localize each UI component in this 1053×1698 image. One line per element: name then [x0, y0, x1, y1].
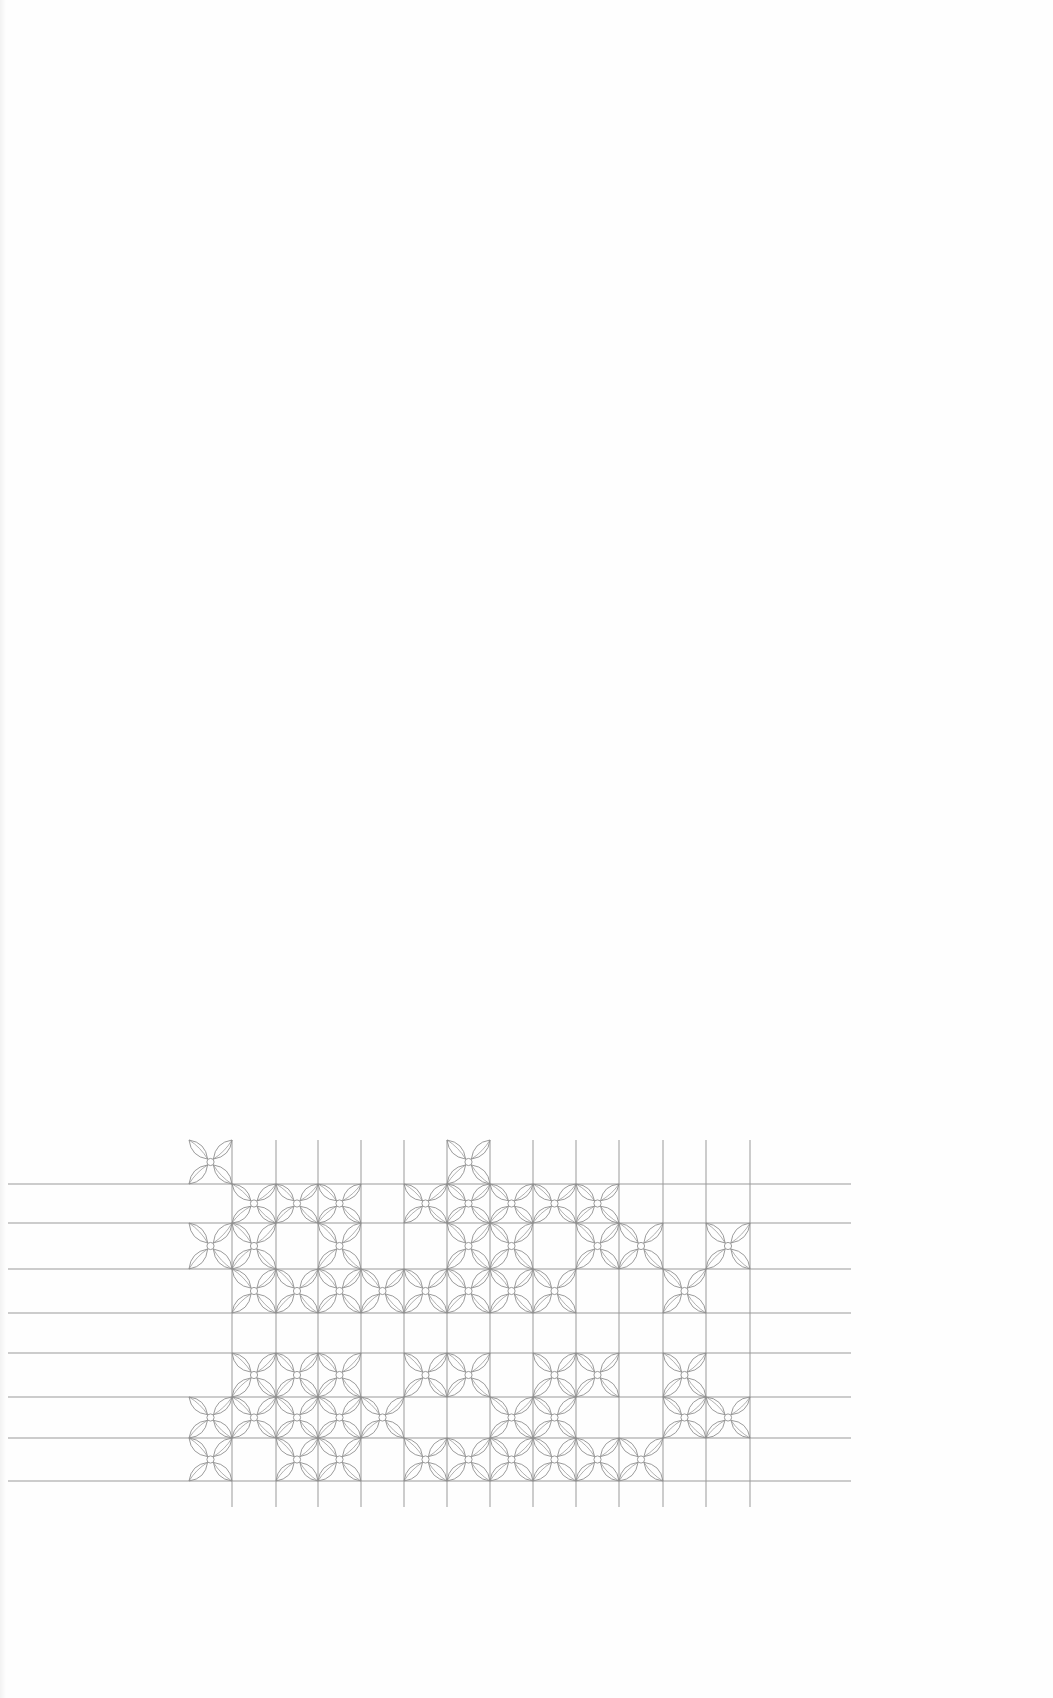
flower-motif-icon	[663, 1269, 706, 1313]
flower-motif-icon	[663, 1397, 706, 1438]
flower-motif-icon	[276, 1397, 318, 1438]
flower-motif-icon	[447, 1223, 490, 1269]
flower-motif-icon	[490, 1223, 533, 1269]
flower-motif-icon	[576, 1353, 619, 1397]
flower-motif-icon	[490, 1438, 533, 1481]
flower-motif-icon	[189, 1140, 232, 1184]
flower-motif-icon	[232, 1353, 276, 1397]
flower-motif-icon	[318, 1269, 361, 1313]
flower-motif-icon	[706, 1223, 750, 1269]
flower-motif-icon	[533, 1184, 576, 1223]
flower-motif-icon	[232, 1397, 276, 1438]
flower-motif-icon	[533, 1269, 576, 1313]
flower-motif-icon	[361, 1397, 404, 1438]
page	[0, 0, 1053, 1698]
flower-motif-icon	[276, 1353, 318, 1397]
flower-motif-icon	[232, 1223, 276, 1269]
flower-grid-pattern	[0, 0, 1053, 1698]
flower-motif-icon	[619, 1438, 663, 1481]
flower-motif-icon	[404, 1184, 447, 1223]
flower-motif-icon	[447, 1353, 490, 1397]
flower-motif-icon	[318, 1438, 361, 1481]
flower-motif-icon	[404, 1269, 447, 1313]
flower-motifs	[189, 1140, 750, 1481]
flower-motif-icon	[447, 1438, 490, 1481]
flower-motif-icon	[361, 1269, 404, 1313]
flower-motif-icon	[447, 1269, 490, 1313]
flower-motif-icon	[490, 1397, 533, 1438]
flower-motif-icon	[318, 1353, 361, 1397]
flower-motif-icon	[490, 1184, 533, 1223]
flower-motif-icon	[232, 1184, 276, 1223]
flower-motif-icon	[318, 1184, 361, 1223]
flower-motif-icon	[404, 1353, 447, 1397]
flower-motif-icon	[619, 1223, 663, 1269]
flower-motif-icon	[318, 1223, 361, 1269]
flower-motif-icon	[276, 1438, 318, 1481]
flower-motif-icon	[404, 1438, 447, 1481]
flower-motif-icon	[232, 1269, 276, 1313]
flower-motif-icon	[533, 1397, 576, 1438]
flower-motif-icon	[576, 1223, 619, 1269]
flower-motif-icon	[276, 1269, 318, 1313]
flower-motif-icon	[318, 1397, 361, 1438]
flower-motif-icon	[576, 1184, 619, 1223]
flower-motif-icon	[533, 1353, 576, 1397]
flower-motif-icon	[189, 1223, 232, 1269]
flower-motif-icon	[533, 1438, 576, 1481]
flower-motif-icon	[576, 1438, 619, 1481]
flower-motif-icon	[189, 1438, 232, 1481]
flower-motif-icon	[663, 1353, 706, 1397]
flower-motif-icon	[447, 1184, 490, 1223]
flower-motif-icon	[276, 1184, 318, 1223]
flower-motif-icon	[706, 1397, 750, 1438]
flower-motif-icon	[447, 1140, 490, 1184]
flower-motif-icon	[189, 1397, 232, 1438]
flower-motif-icon	[490, 1269, 533, 1313]
